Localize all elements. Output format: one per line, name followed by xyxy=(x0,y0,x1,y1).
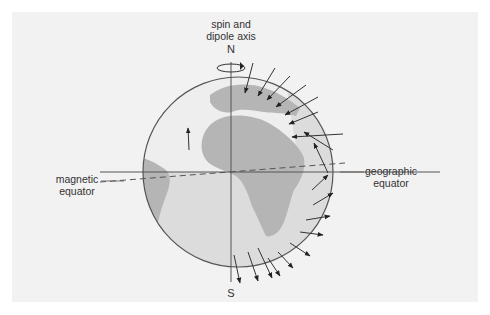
north-pole-label: N xyxy=(227,43,235,55)
south-pole-label: S xyxy=(227,287,234,299)
magnetic-equator-label-line2: equator xyxy=(59,185,95,197)
axis-label-line1: spin and xyxy=(211,18,251,30)
geomagnetic-field-diagram: spin and dipole axis N S magnetic equato… xyxy=(0,0,490,315)
axis-label-line2: dipole axis xyxy=(206,30,256,42)
geographic-equator-label-line1: geographic xyxy=(365,165,417,177)
geographic-equator-label-line2: equator xyxy=(373,177,409,189)
magnetic-equator-label-line1: magnetic xyxy=(56,173,99,185)
